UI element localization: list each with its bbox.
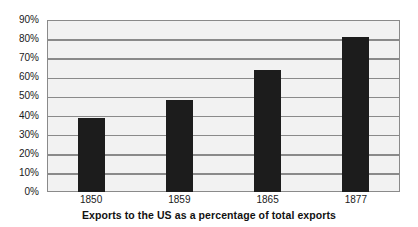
- x-axis-labels: 1850185918651877: [47, 195, 400, 209]
- y-axis-tick-label: 40%: [0, 111, 39, 121]
- bar-chart: 0%10%20%30%40%50%60%70%80%90% 1850185918…: [0, 0, 418, 227]
- y-axis-tick-label: 80%: [0, 34, 39, 44]
- x-axis-tick-label: 1865: [224, 195, 312, 205]
- y-axis-tick-label: 70%: [0, 53, 39, 63]
- bar: [342, 37, 369, 192]
- y-axis-tick-label: 0%: [0, 187, 39, 197]
- bars-layer: [47, 20, 400, 192]
- y-axis-tick-label: 20%: [0, 149, 39, 159]
- y-axis-tick-label: 10%: [0, 168, 39, 178]
- y-axis-tick-label: 30%: [0, 130, 39, 140]
- x-axis-tick-label: 1850: [47, 195, 135, 205]
- y-axis-labels: 0%10%20%30%40%50%60%70%80%90%: [0, 0, 43, 227]
- y-axis-tick-label: 50%: [0, 91, 39, 101]
- x-axis-tick-label: 1877: [312, 195, 400, 205]
- bar: [254, 70, 281, 192]
- bar: [78, 118, 105, 192]
- x-axis-tick-label: 1859: [135, 195, 223, 205]
- bar: [166, 100, 193, 192]
- y-axis-tick-label: 90%: [0, 15, 39, 25]
- chart-caption: Exports to the US as a percentage of tot…: [0, 210, 418, 221]
- y-axis-tick-label: 60%: [0, 72, 39, 82]
